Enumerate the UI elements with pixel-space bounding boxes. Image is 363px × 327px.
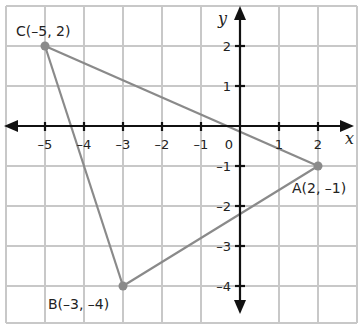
point-a-label: A(2, –1)	[292, 180, 346, 196]
point-a	[314, 162, 323, 171]
point-b	[119, 282, 128, 291]
svg-text:–2: –2	[155, 137, 170, 152]
x-axis-label: x	[345, 129, 354, 148]
svg-text:–1: –1	[216, 159, 231, 174]
svg-text:2: 2	[314, 137, 322, 152]
triangle-graph: –5 –4 –3 –2 –1 0 1 2 2 1 –1 –2 –3 –4 x y…	[0, 0, 363, 327]
svg-text:–5: –5	[38, 137, 53, 152]
svg-text:–4: –4	[216, 279, 231, 294]
point-c-label: C(–5, 2)	[16, 23, 70, 39]
arrow-up-icon	[234, 6, 246, 20]
svg-text:–3: –3	[216, 239, 231, 254]
svg-text:–2: –2	[216, 199, 231, 214]
arrow-down-icon	[234, 300, 246, 314]
grid-lines	[6, 6, 357, 323]
svg-text:1: 1	[223, 79, 231, 94]
svg-text:0: 0	[225, 137, 233, 152]
coordinate-plane: –5 –4 –3 –2 –1 0 1 2 2 1 –1 –2 –3 –4 x y…	[0, 0, 363, 327]
point-c	[41, 42, 50, 51]
y-tick-labels: 2 1 –1 –2 –3 –4	[216, 39, 231, 294]
svg-text:–4: –4	[77, 137, 92, 152]
y-axis-label: y	[217, 9, 228, 28]
x-tick-labels: –5 –4 –3 –2 –1 0 1 2	[38, 137, 323, 152]
axes	[14, 16, 344, 304]
svg-text:2: 2	[223, 39, 231, 54]
svg-text:–3: –3	[116, 137, 131, 152]
point-b-label: B(–3, –4)	[48, 296, 109, 312]
svg-text:–1: –1	[194, 137, 209, 152]
svg-text:1: 1	[275, 137, 283, 152]
